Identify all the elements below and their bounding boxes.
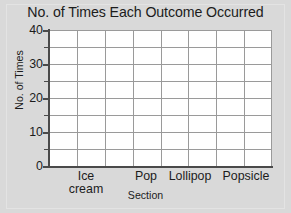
y-tick-30 xyxy=(43,64,49,66)
y-tick-25 xyxy=(44,81,49,82)
x-tick-label-popsicle: Popsicle xyxy=(218,170,274,183)
y-tick-label-10: 10 xyxy=(3,126,43,138)
y-tick-15 xyxy=(44,115,49,116)
x-axis-title: Section xyxy=(0,189,291,201)
y-tick-10 xyxy=(43,132,49,134)
y-axis-title: No. of Times xyxy=(13,40,25,120)
y-tick-35 xyxy=(44,47,49,48)
plot-area xyxy=(50,30,272,167)
y-tick-40 xyxy=(43,30,49,32)
y-tick-5 xyxy=(44,149,49,150)
x-tick-label-pop: Pop xyxy=(129,170,163,183)
y-tick-0 xyxy=(43,166,49,168)
x-axis-line xyxy=(48,166,273,168)
chart-figure: No. of Times Each Outcome Occurred xyxy=(0,0,291,213)
chart-title: No. of Times Each Outcome Occurred xyxy=(0,4,291,20)
y-tick-20 xyxy=(43,98,49,100)
y-tick-label-0: 0 xyxy=(3,160,43,172)
x-tick-label-lollipop: Lollipop xyxy=(162,170,218,183)
grid-lines xyxy=(50,30,272,167)
y-tick-label-40: 40 xyxy=(3,24,43,36)
